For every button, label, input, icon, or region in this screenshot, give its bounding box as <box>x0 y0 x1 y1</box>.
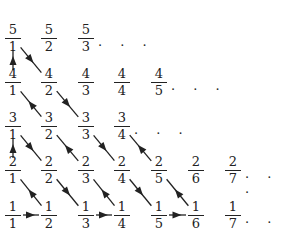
fraction-2-6: 26 <box>188 155 204 186</box>
fraction-1-6: 16 <box>188 200 204 231</box>
denominator: 1 <box>5 171 21 186</box>
fraction-2-5: 25 <box>151 155 167 186</box>
denominator: 3 <box>78 127 94 142</box>
fraction-3-1: 31 <box>5 111 21 142</box>
denominator: 2 <box>41 127 57 142</box>
denominator: 1 <box>5 39 21 54</box>
denominator: 2 <box>41 39 57 54</box>
numerator: 4 <box>5 67 21 83</box>
fraction-1-5: 15 <box>151 200 167 231</box>
numerator: 4 <box>151 67 167 83</box>
fraction-4-5: 45 <box>151 67 167 98</box>
numerator: 4 <box>41 67 57 83</box>
fraction-1-4: 14 <box>114 200 130 231</box>
numerator: 1 <box>78 200 94 216</box>
continuation-ellipsis: . . . <box>245 211 288 233</box>
denominator: 1 <box>5 216 21 231</box>
fraction-2-3: 23 <box>78 155 94 186</box>
denominator: 5 <box>151 171 167 186</box>
denominator: 6 <box>188 171 204 186</box>
numerator: 1 <box>188 200 204 216</box>
fraction-5-1: 51 <box>5 23 21 54</box>
denominator: 2 <box>41 83 57 98</box>
arrowhead-icon <box>102 189 110 198</box>
denominator: 4 <box>114 171 130 186</box>
denominator: 1 <box>5 127 21 142</box>
denominator: 5 <box>151 216 167 231</box>
denominator: 6 <box>188 216 204 231</box>
numerator: 2 <box>78 155 94 171</box>
fraction-3-4: 34 <box>114 111 130 142</box>
fraction-4-2: 42 <box>41 67 57 98</box>
denominator: 3 <box>78 216 94 231</box>
numerator: 5 <box>41 23 57 39</box>
arrowhead-icon <box>26 212 35 219</box>
numerator: 2 <box>225 155 241 171</box>
arrowhead-icon <box>10 144 17 153</box>
denominator: 2 <box>41 216 57 231</box>
numerator: 5 <box>78 23 94 39</box>
denominator: 4 <box>114 83 130 98</box>
fraction-1-2: 12 <box>41 200 57 231</box>
numerator: 2 <box>5 155 21 171</box>
fraction-2-2: 22 <box>41 155 57 186</box>
denominator: 3 <box>78 39 94 54</box>
arrowhead-icon <box>10 56 17 65</box>
arrowhead-icon <box>29 189 37 198</box>
fraction-3-3: 33 <box>78 111 94 142</box>
denominator: 5 <box>151 83 167 98</box>
fraction-2-1: 21 <box>5 155 21 186</box>
fraction-3-2: 32 <box>41 111 57 142</box>
fraction-5-3: 53 <box>78 23 94 54</box>
numerator: 1 <box>225 200 241 216</box>
fraction-2-7: 27 <box>225 155 241 186</box>
numerator: 2 <box>41 155 57 171</box>
continuation-ellipsis: . . . <box>98 34 154 49</box>
denominator: 2 <box>41 171 57 186</box>
denominator: 7 <box>225 216 241 231</box>
continuation-ellipsis: . . . <box>134 122 190 137</box>
numerator: 1 <box>5 200 21 216</box>
numerator: 1 <box>41 200 57 216</box>
rational-enumeration-diagram: 515253. . .4142434445. . .31323334. . .2… <box>0 0 288 233</box>
denominator: 4 <box>114 127 130 142</box>
continuation-ellipsis: . . . <box>245 166 288 196</box>
numerator: 2 <box>151 155 167 171</box>
fraction-1-7: 17 <box>225 200 241 231</box>
numerator: 4 <box>114 67 130 83</box>
fraction-4-3: 43 <box>78 67 94 98</box>
denominator: 7 <box>225 171 241 186</box>
numerator: 4 <box>78 67 94 83</box>
fraction-1-3: 13 <box>78 200 94 231</box>
numerator: 3 <box>78 111 94 127</box>
arrowhead-icon <box>99 212 108 219</box>
fraction-5-2: 52 <box>41 23 57 54</box>
numerator: 3 <box>41 111 57 127</box>
fraction-2-4: 24 <box>114 155 130 186</box>
fraction-1-1: 11 <box>5 200 21 231</box>
denominator: 3 <box>78 83 94 98</box>
numerator: 1 <box>114 200 130 216</box>
numerator: 3 <box>114 111 130 127</box>
numerator: 5 <box>5 23 21 39</box>
fraction-4-1: 41 <box>5 67 21 98</box>
denominator: 1 <box>5 83 21 98</box>
continuation-ellipsis: . . . <box>171 78 227 93</box>
numerator: 1 <box>151 200 167 216</box>
fraction-4-4: 44 <box>114 67 130 98</box>
denominator: 4 <box>114 216 130 231</box>
denominator: 3 <box>78 171 94 186</box>
arrowhead-icon <box>173 212 182 219</box>
numerator: 3 <box>5 111 21 127</box>
numerator: 2 <box>188 155 204 171</box>
numerator: 2 <box>114 155 130 171</box>
